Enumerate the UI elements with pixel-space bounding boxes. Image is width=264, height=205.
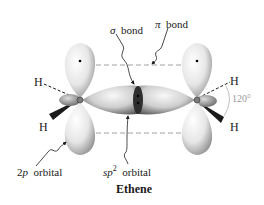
p-orbital-leader-line: [36, 142, 66, 166]
p-orbital-label: 2p orbital: [17, 167, 62, 178]
electron-dot-p-left: [79, 60, 82, 63]
carbon-atom-right: [194, 97, 200, 103]
sp2-orbital-leader-line: [124, 116, 128, 164]
hydrogen-right-bottom: H: [230, 121, 239, 133]
p-orbital-right-top: [182, 43, 212, 98]
hydrogen-right-top: H: [230, 75, 239, 87]
electron-dot-p-right: [196, 60, 199, 63]
hydrogen-left-top: H: [34, 76, 43, 88]
pi-symbol: π: [155, 18, 161, 30]
p-orbital-left-top: [65, 43, 95, 98]
hydrogen-left-bottom: H: [39, 121, 48, 133]
sp2-orbital-label: sp2 orbital: [103, 165, 151, 178]
sigma-bond-lobe-right: [138, 86, 195, 115]
sp2-orbital-text: orbital: [122, 166, 151, 178]
carbon-atom-left: [77, 97, 83, 103]
sigma-symbol: σ: [110, 24, 115, 36]
sigma-bond-label: σ bond: [110, 25, 143, 36]
sigma-overlap-region: [133, 86, 143, 114]
sp2-orbital-italic: sp: [103, 166, 113, 178]
sp2-orbital-superscript: 2: [113, 164, 117, 173]
pi-leader-line: [152, 28, 168, 64]
angle-arc: [224, 86, 230, 116]
pi-bond-text: bond: [166, 18, 188, 30]
electron-dot-sigma-top: [137, 95, 139, 97]
figure-title: Ethene: [116, 183, 152, 195]
pi-bond-label: π bond: [155, 19, 188, 30]
p-orbital-left-bottom: [65, 102, 95, 155]
p-orbital-italic: p: [23, 166, 29, 178]
p-orbital-text: orbital: [34, 166, 63, 178]
bond-angle-label: 120°: [232, 94, 251, 104]
sigma-leader-line: [116, 34, 134, 84]
electron-dot-sigma-bottom: [137, 102, 139, 104]
sigma-bond-text: bond: [121, 24, 143, 36]
sigma-bond-lobe-left: [82, 86, 138, 115]
